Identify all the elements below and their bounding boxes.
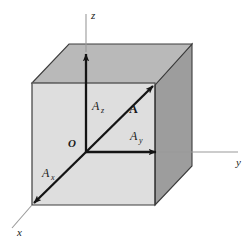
x-axis-label: x [16,226,22,238]
component-ay-base: A [129,129,138,143]
y-axis-label: y [235,156,241,168]
vector-a-label: A [129,102,138,116]
component-ay-subscript: y [138,136,143,145]
component-ax-base: A [41,166,50,180]
origin-label: O [68,137,76,149]
vector-components-figure: z y x O A A z A y A x [0,0,250,240]
component-az-base: A [91,99,100,113]
figure-canvas: z y x O A A z A y A x [0,0,250,240]
z-axis-label: z [90,9,96,21]
component-ax-subscript: x [50,173,55,182]
